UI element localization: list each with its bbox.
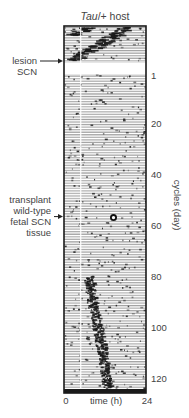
chart-title-rest: /+ host [98, 10, 130, 22]
activity-mark [99, 29, 101, 31]
actogram-row [64, 75, 146, 76]
activity-mark [99, 235, 101, 237]
activity-mark [107, 87, 109, 89]
activity-mark [109, 341, 110, 343]
activity-mark [113, 78, 116, 80]
actogram-row [64, 320, 146, 321]
activity-mark [89, 186, 92, 188]
activity-mark [122, 240, 124, 242]
activity-mark [65, 322, 67, 324]
actogram-row [64, 149, 146, 150]
activity-mark [74, 270, 75, 272]
activity-mark [96, 217, 97, 219]
activity-mark [133, 82, 136, 84]
activity-mark [141, 83, 144, 85]
activity-mark [111, 269, 113, 271]
activity-mark [111, 365, 113, 367]
activity-mark [100, 99, 102, 101]
activity-band-mark [82, 53, 89, 55]
actogram-row [64, 290, 146, 291]
arrow-icon [58, 59, 63, 64]
activity-mark [143, 132, 145, 134]
actogram-row [64, 353, 146, 354]
activity-mark [77, 40, 79, 42]
activity-mark [140, 180, 141, 182]
actogram-row [64, 285, 146, 286]
activity-band-mark [102, 353, 105, 355]
actogram-row [64, 295, 146, 296]
activity-band-mark [94, 307, 98, 309]
activity-mark [125, 142, 126, 144]
activity-mark [112, 184, 114, 186]
annotation-line: lesion [12, 55, 37, 66]
activity-mark [71, 51, 72, 53]
activity-mark [102, 206, 104, 208]
activity-mark [132, 222, 134, 224]
activity-band-mark [99, 322, 100, 324]
activity-mark [125, 336, 126, 338]
actogram-row [64, 315, 146, 316]
actogram-row [64, 369, 146, 370]
activity-band-mark [111, 35, 118, 37]
activity-mark [106, 325, 107, 327]
actogram-row [64, 292, 146, 293]
activity-band-mark [92, 315, 95, 317]
activity-mark [138, 227, 141, 229]
activity-mark [88, 265, 91, 267]
activity-mark [121, 47, 124, 49]
activity-band-mark [98, 48, 104, 50]
activity-mark [109, 326, 111, 328]
activity-mark [141, 321, 142, 323]
actogram-row [64, 30, 146, 31]
activity-mark [104, 85, 107, 87]
activity-mark [112, 58, 114, 60]
activity-mark [107, 281, 110, 283]
activity-mark [133, 44, 136, 46]
activity-band-mark [87, 293, 89, 295]
activity-band-mark [109, 33, 116, 35]
activity-mark [67, 48, 70, 50]
activity-mark [130, 366, 131, 368]
activity-mark [139, 352, 140, 354]
activity-mark [126, 286, 129, 288]
activity-mark [70, 153, 72, 155]
activity-mark [130, 232, 133, 234]
activity-mark [88, 324, 90, 326]
activity-band-mark [69, 59, 75, 61]
activity-band-mark [86, 287, 88, 289]
activity-band-mark [97, 348, 100, 350]
activity-mark [85, 308, 86, 310]
activity-mark [71, 30, 73, 32]
actogram-panel [64, 26, 148, 393]
activity-mark [70, 150, 71, 152]
activity-mark [76, 260, 77, 262]
activity-mark [138, 107, 139, 109]
actogram-row [64, 308, 146, 309]
activity-mark [75, 48, 78, 50]
activity-band-mark [98, 337, 101, 339]
activity-mark [127, 253, 129, 255]
activity-mark [85, 380, 87, 382]
activity-band-mark [105, 349, 108, 351]
activity-mark [102, 228, 103, 230]
activity-mark [126, 345, 129, 347]
activity-mark [103, 143, 105, 145]
activity-mark [76, 113, 78, 115]
activity-mark [112, 240, 114, 242]
activity-band-mark [100, 370, 103, 372]
activity-mark [128, 306, 130, 308]
activity-mark [70, 344, 73, 346]
activity-mark [130, 146, 132, 148]
actogram-row [64, 282, 146, 283]
activity-mark [120, 143, 121, 145]
activity-mark [78, 185, 80, 187]
activity-mark [138, 202, 141, 204]
activity-mark [137, 367, 139, 369]
activity-mark [132, 106, 135, 108]
activity-band-mark [84, 280, 86, 282]
activity-mark [142, 134, 144, 136]
activity-mark [136, 222, 138, 224]
activity-band-mark [103, 336, 107, 338]
activity-band-mark [93, 323, 96, 325]
activity-band-mark [102, 37, 106, 39]
